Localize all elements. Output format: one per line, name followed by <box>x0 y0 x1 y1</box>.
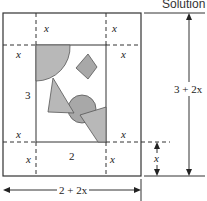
solution-title: Solution <box>162 0 205 11</box>
quarter-circle-shape <box>36 45 70 81</box>
svg-text:x: x <box>109 153 115 165</box>
inner-height-label: 3 <box>25 89 31 101</box>
arrow-up-small-icon <box>154 142 160 149</box>
total-width-label: 2 + 2x <box>59 184 88 196</box>
inner-width-label: 2 <box>69 150 75 162</box>
svg-text:x: x <box>15 48 21 60</box>
total-height-label: 3 + 2x <box>174 83 203 95</box>
arrow-down-icon <box>186 169 192 176</box>
svg-text:x: x <box>15 128 21 140</box>
arrow-down-small-icon <box>154 169 160 176</box>
arrow-left-icon <box>3 187 10 193</box>
arrow-right-icon <box>134 187 141 193</box>
shapes-group <box>36 45 106 142</box>
svg-text:x: x <box>43 22 49 34</box>
bottom-margin-dim-label: x <box>153 152 159 164</box>
page-border-diagram: Solution x x x x x x x x 3 2 3 <box>0 0 207 201</box>
margin-labels: x x x x x x x x <box>15 22 126 165</box>
svg-text:x: x <box>120 128 126 140</box>
svg-text:x: x <box>111 22 117 34</box>
triangle-shape <box>48 78 74 113</box>
diamond-shape <box>76 54 97 79</box>
svg-text:x: x <box>25 153 31 165</box>
svg-text:x: x <box>120 48 126 60</box>
arrow-up-icon <box>186 13 192 20</box>
